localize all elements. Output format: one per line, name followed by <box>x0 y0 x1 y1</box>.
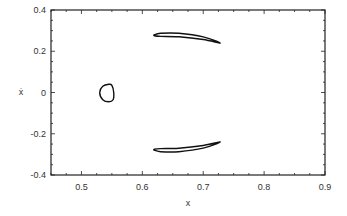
y-tick-label: -0.4 <box>30 170 46 180</box>
x-tick-labels: 0.50.60.70.80.9 <box>75 182 331 192</box>
x-tick-label: 0.6 <box>136 182 149 192</box>
closed-orbit-center <box>100 84 114 102</box>
x-tick-label: 0.5 <box>75 182 88 192</box>
phase-portrait-chart: 0.50.60.70.80.9 0.40.20-0.2-0.4 x ẋ <box>0 0 347 216</box>
y-axis-label: ẋ <box>19 87 24 97</box>
closed-orbit-lower <box>154 142 221 152</box>
y-tick-label: -0.2 <box>30 129 46 139</box>
data-series <box>100 33 221 152</box>
x-tick-label: 0.8 <box>258 182 271 192</box>
y-tick-label: 0.2 <box>33 46 46 56</box>
y-tick-label: 0.4 <box>33 5 46 15</box>
x-axis-label: x <box>186 198 191 208</box>
closed-orbit-upper <box>154 33 221 43</box>
y-tick-label: 0 <box>41 88 46 98</box>
x-tick-label: 0.7 <box>197 182 210 192</box>
y-tick-labels: 0.40.20-0.2-0.4 <box>30 5 46 180</box>
x-tick-label: 0.9 <box>319 182 332 192</box>
